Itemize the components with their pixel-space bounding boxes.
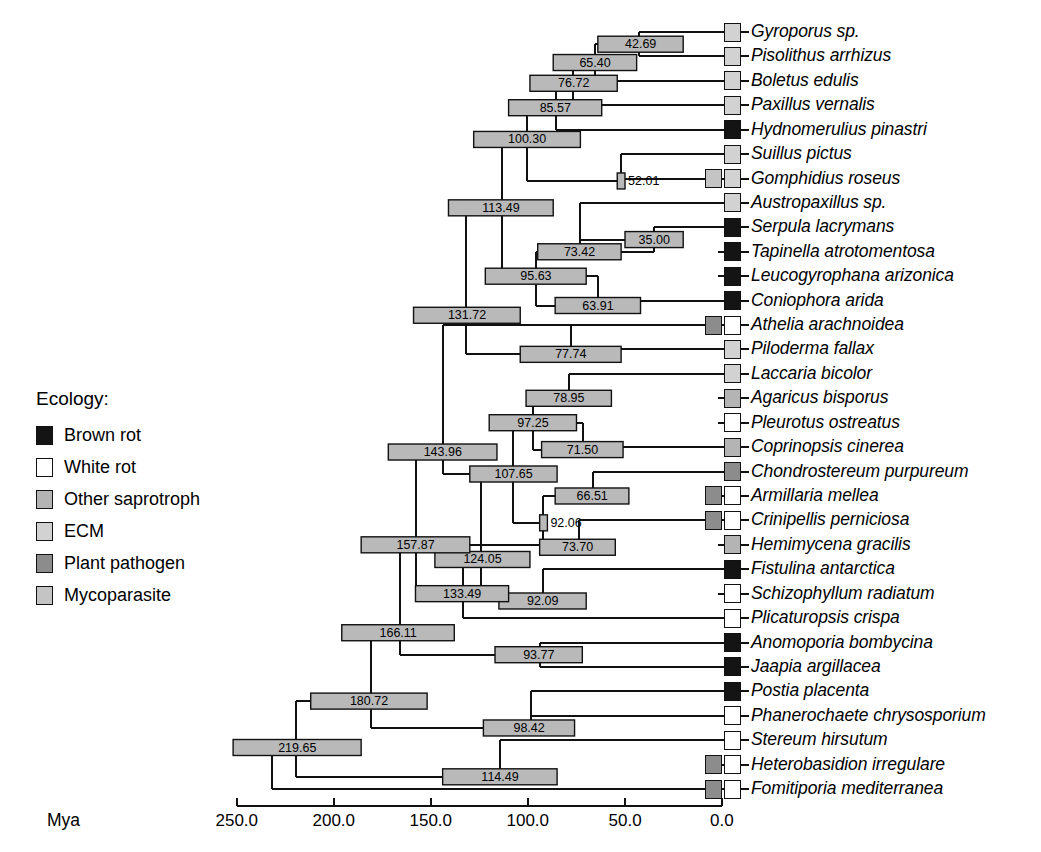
node-age-label: 63.91 (582, 299, 613, 313)
ecology-box (724, 145, 741, 164)
legend-swatch (36, 586, 53, 605)
node-age-label: 73.42 (564, 245, 595, 259)
taxon-label: Phanerochaete chrysosporium (751, 707, 986, 725)
taxon-label: Jaapia argillacea (751, 658, 881, 676)
tip-connector (741, 226, 749, 228)
tip-connector (741, 300, 749, 302)
ecology-box (724, 486, 741, 505)
node-age-label: 92.09 (527, 594, 558, 608)
node-age-label: 100.30 (508, 132, 546, 146)
ecology-box (705, 486, 722, 505)
taxon-label: Pleurotus ostreatus (751, 414, 900, 432)
node-age-label: 180.72 (350, 694, 388, 708)
node-age-label: 92.06 (550, 516, 581, 530)
legend-rows: Brown rotWhite rotOther saprotrophECMPla… (36, 423, 200, 608)
taxon-label: Postia placenta (751, 682, 869, 700)
taxon-label: Agaricus bisporus (751, 389, 888, 407)
tip-connector (741, 104, 749, 106)
axis-tick-label: 50.0 (609, 811, 642, 831)
taxon-label: Anomoporia bombycina (751, 634, 933, 652)
legend-item: ECM (36, 519, 200, 544)
ecology-box (724, 780, 741, 799)
ecology-box (705, 511, 722, 530)
taxon-label: Serpula lacrymans (751, 218, 894, 236)
node-age-label: 76.72 (558, 76, 589, 90)
taxon-label: Suillus pictus (751, 145, 852, 163)
phylogenetic-tree-figure: 42.6965.4076.7285.57100.3052.01113.4935.… (0, 0, 1041, 852)
taxon-label: Schizophyllum radiatum (751, 585, 935, 603)
tip-connector (741, 568, 749, 570)
taxon-label: Gyroporus sp. (751, 23, 860, 41)
tip-connector (741, 715, 749, 717)
node-age-label: 77.74 (555, 347, 586, 361)
tip-connector (741, 324, 749, 326)
ecology-box (724, 316, 741, 335)
ecology-box (724, 462, 741, 481)
tip-connector (741, 519, 749, 521)
legend-item: Other saprotroph (36, 487, 200, 512)
tip-connector (741, 55, 749, 57)
node-age-label: 78.95 (553, 391, 584, 405)
tip-connector (741, 446, 749, 448)
tip-connector (741, 31, 749, 33)
node-age-label: 107.65 (494, 467, 532, 481)
tip-connector (741, 202, 749, 204)
ecology-box (724, 71, 741, 90)
legend-title: Ecology: (36, 388, 200, 410)
node-age-label: 97.25 (517, 416, 548, 430)
legend-swatch (36, 426, 53, 445)
taxon-label: Piloderma fallax (751, 340, 874, 358)
tip-connector (741, 788, 749, 790)
legend-label: ECM (64, 521, 104, 542)
ecology-box (724, 706, 741, 725)
node-age-label: 133.49 (443, 587, 481, 601)
ecology-box (724, 169, 741, 188)
legend-swatch (36, 490, 53, 509)
legend-item: Mycoparasite (36, 583, 200, 608)
axis-unit-label: Mya (47, 810, 80, 831)
node-age-label: 65.40 (579, 56, 610, 70)
ecology-box (724, 633, 741, 652)
ecology-box (705, 169, 722, 188)
tip-connector (741, 251, 749, 253)
node-age-label: 131.72 (448, 308, 486, 322)
node-age-label: 157.87 (396, 538, 434, 552)
ecology-box (724, 120, 741, 139)
ecology-box (724, 267, 741, 286)
ecology-box (724, 560, 741, 579)
taxon-label: Stereum hirsutum (751, 731, 888, 749)
taxon-label: Hemimycena gracilis (751, 536, 911, 554)
ecology-box (724, 364, 741, 383)
node-age-label: 166.11 (380, 626, 417, 640)
taxon-label: Leucogyrophana arizonica (751, 267, 954, 285)
legend-swatch (36, 458, 53, 477)
ecology-box (724, 47, 741, 66)
node-age-label: 219.65 (278, 741, 316, 755)
axis-tick-label: 150.0 (410, 811, 453, 831)
legend-label: Mycoparasite (64, 585, 171, 606)
tip-connector (741, 471, 749, 473)
taxon-label: Fistulina antarctica (751, 560, 895, 578)
taxon-label: Chondrostereum purpureum (751, 463, 968, 481)
axis-tick-label: 200.0 (313, 811, 356, 831)
legend-item: Brown rot (36, 423, 200, 448)
taxon-label: Tapinella atrotomentosa (751, 243, 935, 261)
tip-connector (741, 422, 749, 424)
tip-connector (741, 178, 749, 180)
tip-connector (741, 373, 749, 375)
ecology-box (724, 682, 741, 701)
legend-swatch (36, 554, 53, 573)
node-age-label: 66.51 (577, 489, 608, 503)
node-age-label: 98.42 (513, 721, 544, 735)
node-age-label: 114.49 (481, 770, 518, 784)
taxon-label: Coniophora arida (751, 292, 884, 310)
taxon-label: Pisolithus arrhizus (751, 47, 891, 65)
tip-connector (741, 397, 749, 399)
ecology-box (724, 609, 741, 628)
node-age-label: 42.69 (625, 37, 656, 51)
legend-swatch (36, 522, 53, 541)
node-age-label: 95.63 (520, 269, 551, 283)
taxon-label: Gomphidius roseus (751, 170, 900, 188)
tip-connector (741, 495, 749, 497)
tip-connector (741, 764, 749, 766)
